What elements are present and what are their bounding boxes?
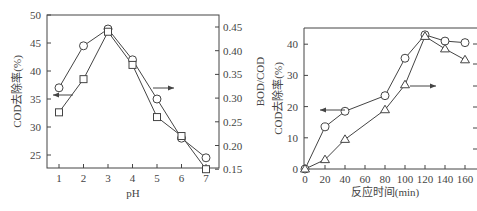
square-marker	[129, 61, 136, 68]
y-tick-label: 40	[30, 65, 42, 77]
y-tick-label: 35	[30, 93, 42, 105]
circle-marker	[153, 95, 161, 103]
triangle-marker	[461, 55, 470, 63]
bod-cod-series-line	[59, 32, 206, 169]
circle-marker	[381, 92, 389, 100]
y-tick-label: 30	[30, 121, 42, 133]
triangle-marker	[401, 80, 410, 88]
circle-marker	[55, 84, 63, 92]
x-tick-label: 160	[457, 173, 474, 185]
x-tick-label: 60	[360, 173, 372, 185]
y2-tick-label: 0.25	[223, 116, 243, 128]
y-tick-label: 50	[30, 9, 42, 21]
chart-canvas: 12345672530354045500.150.200.250.300.350…	[0, 0, 477, 211]
y-tick-label: 20	[287, 101, 299, 113]
bod-cod-series-line	[305, 36, 465, 169]
circle-marker	[202, 154, 210, 162]
x-tick-label: 120	[417, 173, 434, 185]
y-tick-label: 45	[30, 37, 42, 49]
circle-marker	[341, 107, 349, 115]
x-tick-label: 140	[437, 173, 454, 185]
x-tick-label: 6	[179, 172, 185, 184]
square-marker	[56, 109, 63, 116]
y-axis-title: COD去除率(%)	[10, 55, 24, 128]
x-tick-label: 3	[105, 172, 111, 184]
x-tick-label: 2	[81, 172, 87, 184]
x-tick-label: 5	[154, 172, 160, 184]
circle-marker	[461, 39, 469, 47]
square-marker	[105, 28, 112, 35]
square-marker	[154, 114, 161, 121]
y-tick-label: 25	[30, 149, 42, 161]
right-arrow-icon	[430, 84, 436, 89]
time-chart	[301, 28, 477, 173]
circle-marker	[80, 42, 88, 50]
x-tick-label: 1	[56, 172, 62, 184]
x-axis-title: 反应时间(min)	[351, 185, 420, 199]
circle-marker	[401, 54, 409, 62]
y2-axis-title: BOD/COD	[254, 57, 266, 107]
x-tick-label: 7	[203, 172, 209, 184]
y-tick-label: 30	[287, 69, 299, 81]
left-arrow-icon	[320, 108, 326, 113]
cod-series-line	[305, 35, 465, 169]
x-tick-label: 80	[380, 173, 392, 185]
square-marker	[178, 133, 185, 140]
y-axis-title: COD去除率(%)	[271, 62, 285, 135]
y2-tick-label: 0.20	[223, 140, 243, 152]
x-tick-label: 0	[302, 173, 308, 185]
square-marker	[80, 76, 87, 83]
right-arrow-icon	[168, 86, 174, 91]
triangle-marker	[341, 135, 350, 143]
y2-tick-label: 0.35	[223, 68, 243, 80]
plot-frame	[47, 15, 219, 168]
triangle-marker	[441, 44, 450, 52]
y2-tick-label: 0.40	[223, 45, 243, 57]
y-tick-label: 0	[293, 163, 299, 175]
left-arrow-icon	[53, 93, 59, 98]
y2-tick-label: 0.45	[223, 21, 243, 33]
x-axis-title: pH	[126, 187, 140, 199]
x-tick-label: 100	[397, 173, 414, 185]
circle-marker	[321, 123, 329, 131]
ph-chart	[47, 15, 219, 173]
y-tick-label: 10	[287, 132, 299, 144]
x-tick-label: 4	[130, 172, 136, 184]
y2-tick-label: 0.15	[223, 163, 243, 175]
x-tick-label: 40	[340, 173, 352, 185]
y2-tick-label: 0.30	[223, 92, 243, 104]
x-tick-label: 20	[320, 173, 332, 185]
y-tick-label: 40	[287, 38, 299, 50]
